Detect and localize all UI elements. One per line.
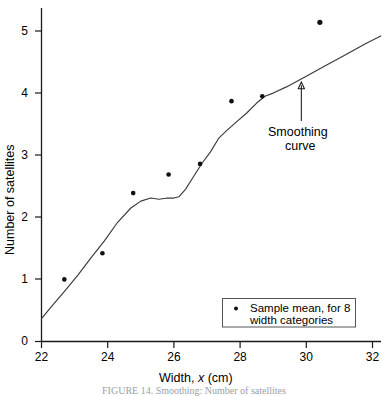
annotation-line-2: curve (285, 139, 316, 153)
smoothing-curve-annotation-arrow (298, 82, 304, 121)
x-axis-title: Width, x (cm) (159, 371, 233, 385)
x-tick-label-24: 24 (101, 350, 115, 364)
x-tick-label-30: 30 (300, 350, 314, 364)
y-tick-label-3: 3 (21, 148, 28, 162)
x-axis-title-post: (cm) (204, 371, 232, 385)
legend-label-line-2: width categories (249, 314, 333, 326)
y-tick-label-0: 0 (21, 334, 28, 348)
legend-label-line-1: Sample mean, for 8 (250, 302, 350, 314)
x-tick-label-26: 26 (167, 350, 181, 364)
data-point (229, 99, 234, 104)
data-point (131, 191, 136, 196)
data-point (317, 20, 322, 25)
y-tick-label-1: 1 (21, 272, 28, 286)
chart-legend[interactable]: Sample mean, for 8 width categories (223, 299, 356, 328)
data-point (100, 251, 105, 256)
smoothing-curve-annotation-text: Smoothing curve (268, 125, 328, 153)
figure-caption: FIGURE 14. Smoothing: Number of satellit… (102, 385, 286, 396)
smoothing-curve-line (42, 36, 381, 319)
x-tick-label-22: 22 (35, 350, 49, 364)
data-point (62, 277, 67, 282)
y-tick-label-4: 4 (21, 86, 28, 100)
data-point (260, 94, 265, 99)
satellites-vs-width-chart: 5 4 3 2 1 0 22 24 26 28 30 32 Number of … (0, 0, 388, 396)
legend-marker-dot-icon (234, 307, 238, 311)
figure-container: 5 4 3 2 1 0 22 24 26 28 30 32 Number of … (0, 0, 388, 396)
x-tick-label-28: 28 (233, 350, 247, 364)
svg-text:Width, x (cm): Width, x (cm) (159, 371, 233, 385)
y-axis-ticks (35, 31, 42, 342)
y-tick-label-5: 5 (21, 24, 28, 38)
annotation-line-1: Smoothing (268, 125, 328, 139)
x-axis-ticks (42, 342, 373, 349)
y-axis-tick-labels: 5 4 3 2 1 0 (21, 24, 28, 348)
x-tick-label-32: 32 (366, 350, 380, 364)
sample-mean-points (62, 20, 322, 282)
data-point (166, 172, 171, 177)
x-axis-tick-labels: 22 24 26 28 30 32 (35, 350, 380, 364)
x-axis-title-pre: Width, (159, 371, 198, 385)
y-tick-label-2: 2 (21, 210, 28, 224)
y-axis-title: Number of satellites (3, 145, 17, 255)
data-point (198, 162, 203, 167)
